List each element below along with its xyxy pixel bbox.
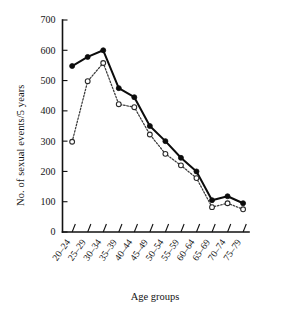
data-point-solid-filled-circles [178,155,183,160]
x-tick-mark [150,224,153,232]
x-tick-mark [212,224,215,232]
y-tick-label: 0 [51,226,56,237]
data-point-dotted-open-circles [85,79,90,84]
x-tick-mark [196,224,199,232]
data-point-solid-filled-circles [147,124,152,129]
y-tick-label: 400 [41,105,56,116]
data-point-dotted-open-circles [147,132,152,137]
chart-figure: No. of sexual events/5 years 01002003004… [0,0,297,313]
y-axis-title: No. of sexual events/5 years [15,85,26,206]
data-point-dotted-open-circles [70,139,75,144]
x-tick-mark [228,224,231,232]
chart-canvas: No. of sexual events/5 years 01002003004… [0,0,297,313]
data-point-solid-filled-circles [70,64,75,69]
data-point-solid-filled-circles [116,86,121,91]
y-tick-label: 500 [41,75,56,86]
data-point-dotted-open-circles [241,207,246,212]
y-tick-label: 700 [41,14,56,25]
data-point-dotted-open-circles [194,176,199,181]
x-tick-mark [181,224,184,232]
data-point-solid-filled-circles [101,48,106,53]
x-tick-mark [88,224,91,232]
series-line-solid-filled-circles [72,50,243,203]
series-layer [70,48,246,212]
x-tick-label: 75–79 [221,237,243,262]
x-tick-mark [165,224,168,232]
series-line-dotted-open-circles [72,63,243,209]
y-tick-label: 600 [41,45,56,56]
y-axis-title-text: No. of sexual events/5 years [15,85,26,206]
x-tick-mark [72,224,75,232]
data-point-solid-filled-circles [132,95,137,100]
x-tick-mark [103,224,106,232]
data-point-solid-filled-circles [225,194,230,199]
data-point-dotted-open-circles [225,201,230,206]
x-axis-ticks [72,224,246,232]
data-point-dotted-open-circles [179,163,184,168]
x-axis-tick-labels: 20–2425–2930–3435–3940–4445–4950–5455–59… [50,237,243,262]
data-point-solid-filled-circles [210,198,215,203]
data-point-dotted-open-circles [132,105,137,110]
y-tick-label: 200 [41,166,56,177]
y-axis-ticks: 0100200300400500600700 [41,14,68,237]
data-point-dotted-open-circles [163,151,168,156]
x-tick-mark [119,224,122,232]
data-point-dotted-open-circles [116,102,121,107]
y-tick-label: 300 [41,136,56,147]
data-point-solid-filled-circles [85,54,90,59]
data-point-solid-filled-circles [241,201,246,206]
x-axis-title-text: Age groups [131,291,180,302]
x-tick-mark [243,224,246,232]
data-point-solid-filled-circles [194,169,199,174]
x-tick-mark [134,224,137,232]
data-point-dotted-open-circles [210,205,215,210]
data-point-dotted-open-circles [101,61,106,66]
data-point-solid-filled-circles [163,139,168,144]
y-tick-label: 100 [41,196,56,207]
